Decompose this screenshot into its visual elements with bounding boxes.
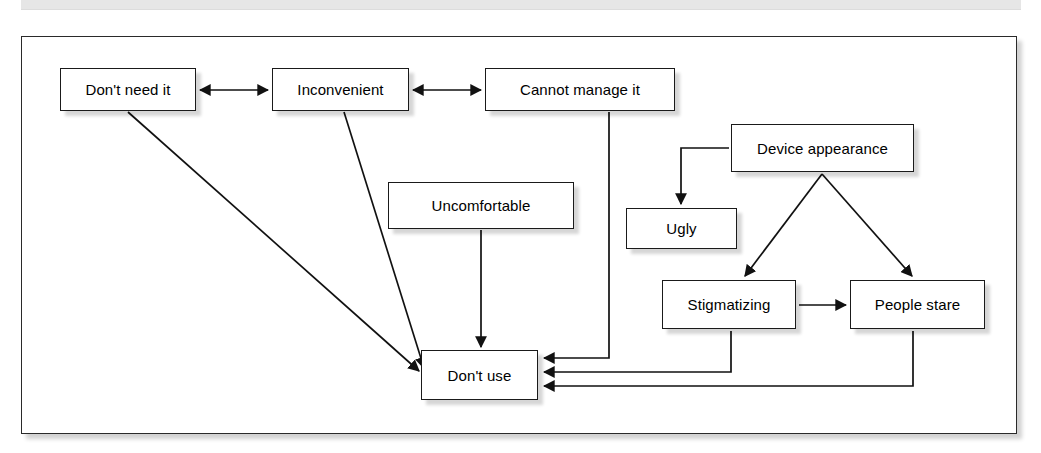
figure-root: Don't need it Inconvenient Cannot manage… xyxy=(0,0,1041,453)
node-dont-need-it[interactable]: Don't need it xyxy=(60,68,196,111)
node-dont-use[interactable]: Don't use xyxy=(421,350,538,400)
node-label: Device appearance xyxy=(757,140,888,157)
node-cannot-manage-it[interactable]: Cannot manage it xyxy=(485,68,675,111)
node-label: Don't need it xyxy=(85,81,170,98)
node-label: People stare xyxy=(875,296,960,313)
node-ugly[interactable]: Ugly xyxy=(626,208,737,249)
node-stigmatizing[interactable]: Stigmatizing xyxy=(662,280,796,329)
node-label: Stigmatizing xyxy=(688,296,771,313)
node-uncomfortable[interactable]: Uncomfortable xyxy=(388,182,574,229)
node-inconvenient[interactable]: Inconvenient xyxy=(272,68,409,111)
node-label: Inconvenient xyxy=(297,81,383,98)
node-device-appearance[interactable]: Device appearance xyxy=(731,124,914,172)
node-people-stare[interactable]: People stare xyxy=(850,280,985,329)
node-label: Cannot manage it xyxy=(520,81,640,98)
node-label: Don't use xyxy=(448,367,512,384)
node-label: Ugly xyxy=(666,220,696,237)
node-label: Uncomfortable xyxy=(432,197,531,214)
top-rule-divider xyxy=(21,0,1021,10)
